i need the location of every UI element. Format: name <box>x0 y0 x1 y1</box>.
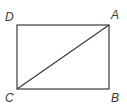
diagonal-ca <box>17 25 109 89</box>
vertex-label-d: D <box>5 11 14 23</box>
diagram-canvas <box>0 0 127 108</box>
rectangle-diagram: D A C B <box>0 0 127 108</box>
vertex-label-a: A <box>111 9 119 21</box>
vertex-label-b: B <box>111 92 119 104</box>
vertex-label-c: C <box>5 92 14 104</box>
